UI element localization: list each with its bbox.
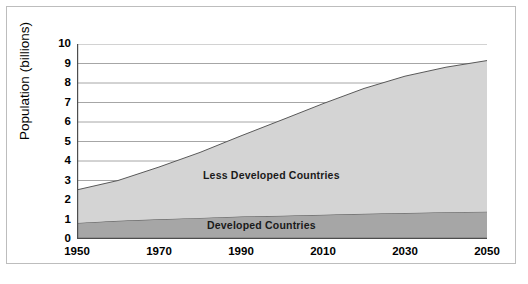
y-tick-label-8: 8: [47, 77, 71, 88]
annotation-less-developed-countries: Less Developed Countries: [203, 169, 340, 181]
y-tick-label-3: 3: [47, 175, 71, 186]
y-tick-label-7: 7: [47, 97, 71, 108]
plot-svg: [77, 44, 487, 239]
y-tick-label-0: 0: [47, 233, 71, 244]
y-tick-label-6: 6: [47, 116, 71, 127]
annotation-developed-countries: Developed Countries: [207, 219, 316, 231]
x-tick-label-1970: 1970: [129, 245, 189, 257]
plot-area: Less Developed Countries Developed Count…: [77, 44, 487, 239]
population-area-chart: Population (billions) 012345678910 Less …: [0, 0, 528, 284]
y-tick-label-2: 2: [47, 194, 71, 205]
x-tick-label-2030: 2030: [375, 245, 435, 257]
y-tick-label-1: 1: [47, 214, 71, 225]
x-tick-label-2050: 2050: [457, 245, 517, 257]
x-tick-label-1950: 1950: [47, 245, 107, 257]
y-tick-label-5: 5: [47, 136, 71, 147]
y-tick-label-9: 9: [47, 58, 71, 69]
x-axis-tick-labels: 195019701990201020302050: [7, 245, 528, 265]
y-axis-tick-labels: 012345678910: [45, 7, 71, 284]
y-axis-title: Population (billions): [17, 0, 32, 181]
y-tick-label-4: 4: [47, 155, 71, 166]
chart-frame: Population (billions) 012345678910 Less …: [6, 6, 516, 264]
x-tick-label-2010: 2010: [293, 245, 353, 257]
area-series-group: [77, 61, 487, 239]
y-tick-label-10: 10: [47, 38, 71, 49]
x-tick-label-1990: 1990: [211, 245, 271, 257]
